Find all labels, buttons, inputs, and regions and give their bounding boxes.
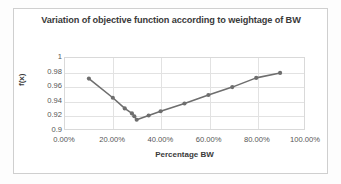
y-tick-label: 0.9 (28, 126, 62, 134)
data-point (123, 106, 127, 110)
data-point (182, 101, 186, 105)
y-tick-label: 0.92 (28, 111, 62, 119)
y-tick-label: 1 (28, 53, 62, 61)
chart-screenshot: Variation of objective function accordin… (0, 0, 341, 184)
data-point (147, 113, 151, 117)
plot-area (64, 57, 305, 130)
y-tick-label: 0.96 (28, 82, 62, 90)
data-point (206, 93, 210, 97)
x-axis-title: Percentage BW (64, 150, 305, 159)
data-point (132, 114, 136, 118)
y-axis-title: f(x) (17, 74, 26, 86)
data-point (254, 76, 258, 80)
data-point (159, 109, 163, 113)
y-tick-label: 0.98 (28, 68, 62, 76)
y-axis-tick-labels: 1 0.98 0.96 0.94 0.92 0.9 (26, 0, 62, 184)
data-point (111, 96, 115, 100)
data-point (278, 71, 282, 75)
data-point (230, 85, 234, 89)
series-line (89, 73, 280, 120)
x-tick-label: 100.00% (277, 135, 333, 144)
y-tick-label: 0.94 (28, 97, 62, 105)
data-point (87, 77, 91, 81)
data-series-layer (65, 58, 304, 129)
chart-title: Variation of objective function accordin… (24, 14, 318, 27)
data-point (135, 118, 139, 122)
